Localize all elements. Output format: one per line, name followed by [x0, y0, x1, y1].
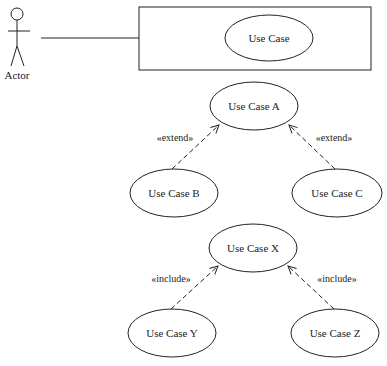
extend-stereotype-left: «extend» — [157, 132, 194, 143]
include-group: «include» «include» Use Case X Use Case … — [128, 224, 379, 357]
use-case-b-label: Use Case B — [148, 187, 199, 199]
include-stereotype-left: «include» — [151, 273, 190, 284]
use-case-a-label: Use Case A — [228, 100, 279, 112]
actor-label: Actor — [4, 69, 29, 81]
use-case-b[interactable]: Use Case B — [130, 169, 218, 217]
actor-left-leg — [11, 46, 17, 66]
use-case-a[interactable]: Use Case A — [210, 82, 298, 130]
include-stereotype-right: «include» — [317, 273, 356, 284]
use-case-diagram: Actor Use Case «extend» «extend» Use Cas… — [0, 0, 387, 366]
use-case-c-label: Use Case C — [311, 187, 362, 199]
use-case-y-label: Use Case Y — [146, 327, 198, 339]
use-case-y[interactable]: Use Case Y — [128, 309, 216, 357]
system-boundary: Use Case — [139, 7, 371, 70]
use-case-x-label: Use Case X — [227, 242, 279, 254]
use-case[interactable]: Use Case — [225, 15, 313, 61]
use-case-c[interactable]: Use Case C — [292, 169, 382, 217]
use-case-z-label: Use Case Z — [310, 327, 361, 339]
use-case-label: Use Case — [248, 32, 289, 44]
actor: Actor — [4, 8, 30, 81]
extend-stereotype-right: «extend» — [316, 132, 353, 143]
actor-right-leg — [17, 46, 24, 66]
actor-head-icon — [11, 8, 23, 20]
extend-group: «extend» «extend» Use Case A Use Case B … — [130, 82, 382, 217]
use-case-z[interactable]: Use Case Z — [291, 309, 379, 357]
use-case-x[interactable]: Use Case X — [209, 224, 297, 272]
